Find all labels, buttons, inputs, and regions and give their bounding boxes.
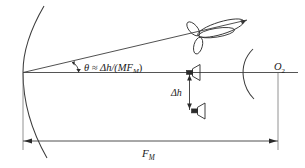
upper-side-lobe (184, 20, 201, 38)
angle-arc-arrowhead-bottom (76, 69, 81, 72)
focal-length-subscript: M (148, 154, 156, 162)
angle-formula-label: θ ≈ Δh/(MFM) (84, 62, 143, 75)
angle-arc-arrowhead-top (72, 61, 75, 66)
secondary-mirror-subscript: 2 (282, 67, 286, 75)
angle-formula-text: θ ≈ Δh/(MF (84, 62, 134, 74)
focal-length-arrowhead-left (24, 139, 32, 144)
delta-h-label: Δh (170, 87, 182, 98)
secondary-reflector-arc (243, 49, 254, 99)
tilted-ray (23, 20, 247, 73)
delta-h-arrowhead-bottom (187, 104, 192, 109)
angle-formula-close: ) (139, 62, 143, 74)
focal-length-arrowhead-right (269, 139, 277, 144)
feed-horn-offset (192, 103, 206, 119)
antenna-magnification-svg: θ ≈ Δh/(MFM) Δh O2 FM (0, 0, 305, 168)
diagram-canvas: θ ≈ Δh/(MFM) Δh O2 FM (0, 0, 305, 168)
feed-horn-offset-flare (198, 103, 206, 119)
focal-length-label: FM (141, 147, 156, 162)
inner-lobe (198, 26, 235, 40)
feed-horn-on-axis-waveguide (187, 70, 193, 74)
delta-h-arrowhead-top (187, 75, 192, 80)
feed-horn-offset-waveguide (192, 109, 198, 113)
primary-reflector-arc (23, 6, 47, 158)
lower-side-lobe (192, 36, 205, 55)
